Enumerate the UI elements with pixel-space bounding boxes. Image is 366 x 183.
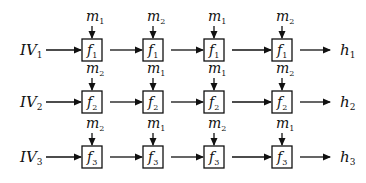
input-label-iv2: IV2 — [19, 93, 43, 112]
modifier-label: m1 — [86, 8, 104, 26]
modifier-label: m2 — [86, 115, 104, 133]
modifier-label: m1 — [147, 60, 165, 78]
modifier-label: m2 — [276, 60, 294, 78]
modifier-label: m2 — [276, 8, 294, 26]
output-label-h3: h3 — [340, 148, 356, 167]
modifier-label: m1 — [208, 60, 226, 78]
block-diagram: IV1f1m1f1m2f1m1f1m2h1IV2f2m2f2m1f2m1f2m2… — [0, 0, 366, 183]
input-label-iv3: IV3 — [19, 148, 43, 167]
modifier-label: m1 — [208, 8, 226, 26]
modifier-label: m1 — [276, 115, 294, 133]
output-label-h1: h1 — [340, 41, 355, 60]
modifier-label: m1 — [147, 115, 165, 133]
modifier-label: m2 — [147, 8, 165, 26]
output-label-h2: h2 — [340, 93, 355, 112]
input-label-iv1: IV1 — [19, 41, 43, 60]
modifier-label: m2 — [86, 60, 104, 78]
modifier-label: m2 — [208, 115, 226, 133]
